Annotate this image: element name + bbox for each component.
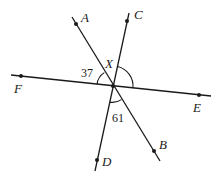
intersecting-lines-diagram: A C F E B D X 37 61 — [0, 0, 223, 179]
point-B-dot — [152, 149, 156, 153]
angle-arc-AXF — [97, 73, 104, 85]
label-A: A — [80, 10, 89, 25]
angle-arc-CXE — [118, 67, 134, 89]
label-F: F — [13, 81, 23, 96]
label-C: C — [134, 7, 143, 22]
line-CD — [95, 13, 129, 171]
point-D-dot — [95, 158, 99, 162]
point-A-dot — [74, 22, 78, 26]
label-B: B — [159, 137, 167, 152]
label-X: X — [104, 56, 114, 71]
angle-value-AXF: 37 — [81, 66, 93, 80]
label-D: D — [101, 154, 112, 169]
point-F-dot — [19, 74, 23, 78]
angle-value-DXB: 61 — [112, 111, 124, 125]
label-E: E — [192, 100, 201, 115]
point-E-dot — [197, 93, 201, 97]
intersection-X-dot — [111, 84, 115, 88]
line-FE — [11, 75, 211, 96]
point-C-dot — [125, 19, 129, 23]
angle-arc-DXB — [110, 100, 122, 103]
